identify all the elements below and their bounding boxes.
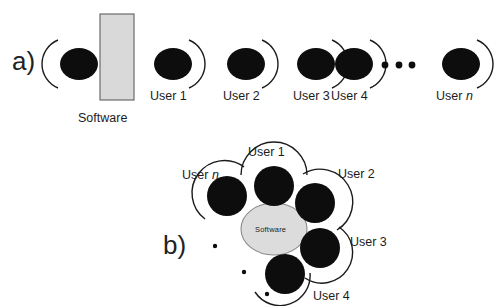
panel-b-user-2-head [295,183,335,223]
panel-b-user-4-label: User 4 [313,290,350,303]
panel-b-user-3-label: User 3 [350,236,387,249]
ellipsis-dot [213,244,217,248]
ellipsis-dot [242,270,246,274]
panel-b-user-1-head [254,166,294,206]
panel-b-user-4-head [265,254,305,294]
panel-b-user-2-label: User 2 [338,168,375,181]
panel-b-user-n-head [207,176,247,216]
panel-b-user-n-label: User n [182,169,219,182]
panel-b-software-label: Software [255,226,286,234]
panel-b-user-3-head [300,228,340,268]
panel-b-user-1-label: User 1 [248,146,285,159]
ellipsis-dot [265,292,269,296]
figure-container: a) Software User 1 User 2 User 3 User 4 … [0,0,499,306]
